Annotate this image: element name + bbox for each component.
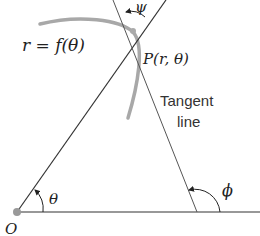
point-label: P(r, θ) (142, 50, 189, 68)
theta-arc (35, 190, 43, 212)
theta-label: θ (49, 190, 58, 208)
radius-line (17, 0, 166, 212)
curve-label: r = f(θ) (22, 35, 85, 55)
phi-label: ϕ (222, 181, 233, 200)
tangent-label-line2: line (177, 113, 200, 130)
polar-curve (40, 19, 139, 118)
polar-tangent-diagram: r = f(θ) P(r, θ) Tangent line ψ θ ϕ O (0, 0, 260, 236)
tangent-label-line1: Tangent (160, 92, 214, 109)
point-p (130, 28, 136, 34)
psi-label: ψ (135, 0, 147, 16)
origin-point (13, 208, 21, 216)
phi-arc (189, 189, 220, 212)
origin-label: O (5, 220, 17, 236)
